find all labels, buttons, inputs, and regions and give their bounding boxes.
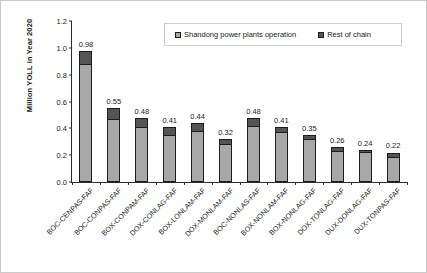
bar-column: 0.22 [387, 152, 400, 182]
x-axis-tick-mark [156, 182, 157, 185]
bar-segment-rest-of-chain [107, 108, 120, 119]
bar-value-label: 0.44 [190, 112, 205, 121]
bar-column: 0.24 [359, 150, 372, 182]
bar-segment-operation [331, 151, 344, 182]
bar-value-label: 0.26 [330, 136, 345, 145]
y-axis-tick-mark [69, 47, 72, 48]
legend-label-operation: Shandong power plants operation [184, 30, 296, 39]
bar-value-label: 0.35 [302, 124, 317, 133]
bar-column: 0.41 [275, 127, 288, 182]
bar-value-label: 0.41 [274, 116, 289, 125]
y-axis-tick-mark [69, 155, 72, 156]
x-axis-category-label: DOX-MONLAM-FAF [183, 186, 235, 238]
bar-column: 0.44 [191, 123, 204, 182]
bar-column: 0.48 [135, 118, 148, 182]
bar-value-label: 0.48 [246, 107, 261, 116]
bar-segment-rest-of-chain [191, 123, 204, 131]
bar-segment-operation [387, 157, 400, 182]
x-axis-tick-mark [407, 182, 408, 185]
x-axis-category-label: DOX-CONLAG-FAF [128, 186, 180, 238]
bar-segment-operation [191, 131, 204, 182]
y-axis-tick-mark [69, 21, 72, 22]
x-axis-tick-mark [323, 182, 324, 185]
y-axis-tick-mark [69, 128, 72, 129]
x-axis-tick-mark [267, 182, 268, 185]
bar-column: 0.26 [331, 147, 344, 182]
x-axis-tick-mark [351, 182, 352, 185]
bar-column: 0.41 [163, 127, 176, 182]
bar-value-label: 0.98 [79, 40, 94, 49]
legend-label-rest-of-chain: Rest of chain [327, 30, 371, 39]
x-axis-tick-mark [295, 182, 296, 185]
x-axis-tick-mark [128, 182, 129, 185]
bar-column: 0.55 [107, 108, 120, 182]
x-axis-tick-mark [184, 182, 185, 185]
bar-segment-operation [107, 119, 120, 182]
x-axis-tick-mark [379, 182, 380, 185]
bar-column: 0.98 [79, 51, 92, 182]
bar-segment-operation [163, 135, 176, 182]
bar-segment-rest-of-chain [247, 118, 260, 126]
bar-segment-operation [135, 127, 148, 182]
bar-segment-rest-of-chain [135, 118, 148, 127]
bar-segment-operation [275, 132, 288, 182]
y-axis-tick-mark [69, 74, 72, 75]
bar-value-label: 0.41 [162, 116, 177, 125]
y-axis-title: Million YOLL in Year 2020 [25, 0, 34, 141]
x-axis-category-label: BOX-CONPAM-FAF [99, 186, 151, 238]
bar-segment-operation [247, 126, 260, 182]
chart-legend: Shandong power plants operation Rest of … [164, 23, 402, 46]
x-axis-tick-mark [72, 182, 73, 185]
x-axis-tick-mark [240, 182, 241, 185]
bar-column: 0.35 [303, 135, 316, 182]
bar-value-label: 0.24 [358, 139, 373, 148]
x-axis-tick-mark [100, 182, 101, 185]
bar-value-label: 0.48 [134, 107, 149, 116]
bar-segment-operation [303, 139, 316, 182]
bar-segment-rest-of-chain [79, 51, 92, 64]
bar-value-label: 0.32 [218, 128, 233, 137]
legend-item-operation: Shandong power plants operation [175, 30, 296, 39]
bar-segment-operation [359, 152, 372, 182]
x-axis-tick-mark [212, 182, 213, 185]
chart-container: Million YOLL in Year 2020 0.00.20.40.60.… [0, 0, 427, 273]
legend-item-rest-of-chain: Rest of chain [318, 30, 371, 39]
bar-segment-operation [219, 144, 232, 182]
bar-column: 0.48 [247, 118, 260, 182]
legend-swatch-operation-icon [175, 32, 181, 38]
x-axis-category-label: BOC-CENPAS-FAF [45, 186, 96, 237]
y-axis-tick-mark [69, 101, 72, 102]
bar-value-label: 0.22 [386, 141, 401, 150]
bar-column: 0.32 [219, 139, 232, 182]
legend-swatch-rest-of-chain-icon [318, 32, 324, 38]
bar-segment-rest-of-chain [163, 127, 176, 135]
bar-value-label: 0.55 [107, 97, 122, 106]
bar-segment-operation [79, 64, 92, 182]
